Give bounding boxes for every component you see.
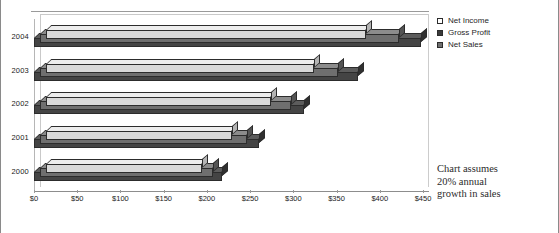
bar-end-facet [304,95,310,109]
x-axis-tick-label-150: $150 [155,194,172,203]
x-axis-tick-label-300: $300 [285,194,302,203]
y-axis-label-2002: 2002 [1,99,29,108]
x-axis-tick-label-450: $450 [415,194,432,203]
legend-item-gross-profit[interactable]: Gross Profit [437,28,552,37]
y-axis-label-2004: 2004 [1,32,29,41]
bar-end-facet [222,162,228,176]
x-axis-tick-mark [164,190,165,193]
bar-2004-net-income [46,30,366,39]
x-axis-tick-mark [34,190,35,193]
x-axis-tick-label-200: $200 [199,194,216,203]
plot-area [31,14,429,192]
x-axis-tick-mark [337,190,338,193]
axis-back-line [40,14,429,15]
bar-2001-net-income [46,131,232,140]
legend-item-net-income[interactable]: Net Income [437,16,552,25]
bar-2002-net-income [46,97,271,106]
x-axis-tick-mark [380,190,381,193]
annotation-line-3: growth in sales [437,188,555,201]
legend-label: Net Income [448,16,489,25]
legend-swatch-net-sales-icon [437,42,443,48]
x-axis-tick-mark [77,190,78,193]
y-axis-label-2000: 2000 [1,167,29,176]
legend-label: Net Sales [448,40,483,49]
legend-swatch-net-income-icon [437,18,443,24]
bar-2003-net-income [46,64,314,73]
x-axis-tick-label-400: $400 [371,194,388,203]
chart-figure: 20042003200220012000 $0$50$100$150$200$2… [0,0,559,233]
bar-end-facet [358,62,364,76]
chart-legend: Net IncomeGross ProfitNet Sales [437,16,552,52]
x-axis-tick-mark [250,190,251,193]
annotation-line-2: 20% annual [437,176,555,189]
y-axis-label-2001: 2001 [1,133,29,142]
axis-right-back-line [428,14,429,187]
y-axis-category-labels: 20042003200220012000 [1,14,31,192]
legend-label: Gross Profit [448,28,490,37]
x-axis-tick-label-50: $50 [71,194,84,203]
top-divider-rule [31,11,429,12]
x-axis-ticks: $0$50$100$150$200$250$300$350$400$450 [31,190,429,210]
x-axis-tick-label-100: $100 [112,194,129,203]
annotation-line-1: Chart assumes [437,163,555,176]
bar-front-facet [46,131,232,140]
bar-front-facet [46,64,314,73]
bar-end-facet [421,28,427,42]
x-axis-tick-label-0: $0 [30,194,38,203]
x-axis-tick-mark [207,190,208,193]
bar-front-facet [46,97,271,106]
chart-annotation: Chart assumes 20% annual growth in sales [437,163,555,201]
bar-front-facet [46,30,366,39]
x-axis-tick-mark [423,190,424,193]
legend-swatch-gross-profit-icon [437,30,443,36]
x-axis-tick-mark [120,190,121,193]
bar-2000-net-income [46,164,202,173]
bar-front-facet [46,164,202,173]
x-axis-tick-label-250: $250 [242,194,259,203]
x-axis-tick-mark [293,190,294,193]
bar-end-facet [259,129,265,143]
legend-item-net-sales[interactable]: Net Sales [437,40,552,49]
y-axis-label-2003: 2003 [1,66,29,75]
x-axis-tick-label-350: $350 [328,194,345,203]
